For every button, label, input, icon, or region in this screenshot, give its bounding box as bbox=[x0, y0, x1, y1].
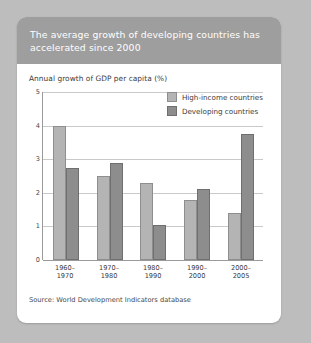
bar bbox=[153, 225, 166, 260]
y-axis-ticks: 012345 bbox=[30, 92, 43, 260]
x-axis-label: 1970–1980 bbox=[95, 264, 123, 280]
x-axis-label: 1990–2000 bbox=[183, 264, 211, 280]
x-axis-labels: 1960–19701970–19801980–19901990–20002000… bbox=[43, 264, 263, 280]
chart-subtitle: Annual growth of GDP per capita (%) bbox=[29, 74, 269, 83]
y-tick-label-1: 1 bbox=[36, 222, 40, 230]
bar bbox=[140, 183, 153, 260]
x-axis-label: 1980–1990 bbox=[139, 264, 167, 280]
x-axis-label: 2000–2005 bbox=[227, 264, 255, 280]
page-title: The average growth of developing countri… bbox=[30, 29, 260, 53]
bar bbox=[197, 189, 210, 260]
bar-group bbox=[140, 92, 166, 260]
y-tick-label-3: 3 bbox=[36, 155, 40, 163]
legend-swatch-icon-high-income bbox=[167, 92, 177, 102]
bar bbox=[110, 163, 123, 260]
figure-card: The average growth of developing countri… bbox=[17, 17, 281, 323]
source-note: Source: World Development Indicators dat… bbox=[29, 296, 191, 304]
chart-body: Annual growth of GDP per capita (%) High… bbox=[17, 64, 281, 315]
gridline-0 bbox=[43, 260, 263, 261]
legend-label-high-income: High-income countries bbox=[182, 93, 263, 102]
legend-label-developing: Developing countries bbox=[182, 107, 258, 116]
bar bbox=[66, 168, 79, 260]
x-axis-label: 1960–1970 bbox=[51, 264, 79, 280]
bar bbox=[184, 200, 197, 260]
legend-swatch-icon-developing bbox=[167, 106, 177, 116]
bar bbox=[53, 126, 66, 260]
legend-item-high-income: High-income countries bbox=[167, 92, 263, 102]
y-tick-label-5: 5 bbox=[36, 88, 40, 96]
legend-item-developing: Developing countries bbox=[167, 106, 263, 116]
bar-group bbox=[53, 92, 79, 260]
y-tick-label-4: 4 bbox=[36, 122, 40, 130]
bar bbox=[97, 176, 110, 260]
y-tick-label-2: 2 bbox=[36, 189, 40, 197]
bar bbox=[228, 213, 241, 260]
y-tick-label-0: 0 bbox=[36, 256, 40, 264]
bar bbox=[241, 134, 254, 260]
chart-title-banner: The average growth of developing countri… bbox=[17, 17, 281, 64]
bar-group bbox=[97, 92, 123, 260]
chart-legend: High-income countries Developing countri… bbox=[167, 92, 263, 120]
